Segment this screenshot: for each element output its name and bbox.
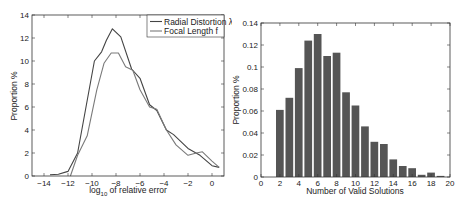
y-tick-label: 0.02 xyxy=(242,151,258,160)
bar xyxy=(371,142,379,177)
y-tick-label: 0.06 xyxy=(242,107,258,116)
bar xyxy=(380,144,388,177)
bar xyxy=(314,34,322,177)
bar xyxy=(399,166,407,177)
y-tick-label: 0.08 xyxy=(242,85,258,94)
bar xyxy=(352,106,360,178)
valid-solutions-bar-chart: 0246810121416182000.020.040.060.080.10.1… xyxy=(0,0,463,209)
y-tick-label: 0.14 xyxy=(242,19,258,28)
x-tick-label: 4 xyxy=(297,179,302,188)
y-tick-label: 0.12 xyxy=(242,41,258,50)
bar xyxy=(304,41,312,177)
bar xyxy=(361,126,369,177)
x-tick-label: 20 xyxy=(446,179,455,188)
bar xyxy=(276,110,284,177)
bar xyxy=(333,53,341,177)
y-tick-label: 0 xyxy=(254,173,259,182)
x-tick-label: 16 xyxy=(408,179,417,188)
y-tick-label: 0.1 xyxy=(247,63,259,72)
bar xyxy=(323,56,331,177)
right-y-axis-label: Proportion % xyxy=(231,75,241,125)
bar xyxy=(295,68,303,177)
bar xyxy=(286,98,294,177)
bar xyxy=(342,92,350,177)
x-tick-label: 2 xyxy=(278,179,283,188)
right-bars xyxy=(276,34,444,177)
x-tick-label: 0 xyxy=(259,179,264,188)
x-tick-label: 18 xyxy=(427,179,436,188)
right-x-axis-label: Number of Valid Solutions xyxy=(306,186,404,196)
y-tick-label: 0.04 xyxy=(242,129,258,138)
